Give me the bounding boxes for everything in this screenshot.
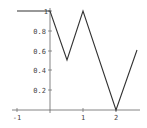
x-tick-label: -1 xyxy=(13,114,21,122)
y-tick-label: 0.4 xyxy=(33,67,46,75)
y-tick-label: 0.6 xyxy=(33,48,46,56)
y-axis: 0.2 0.4 0.6 0.8 1 xyxy=(33,8,52,113)
x-axis: -1 1 2 xyxy=(12,108,140,122)
y-tick-label: 0.8 xyxy=(33,28,46,36)
data-line xyxy=(17,11,137,110)
y-tick-label: 1 xyxy=(44,8,48,16)
x-tick-label: 2 xyxy=(114,114,118,122)
x-tick-label: 1 xyxy=(81,114,85,122)
y-tick-label: 0.2 xyxy=(33,87,46,95)
line-chart: -1 1 2 0.2 0.4 0.6 0.8 1 xyxy=(0,0,147,128)
